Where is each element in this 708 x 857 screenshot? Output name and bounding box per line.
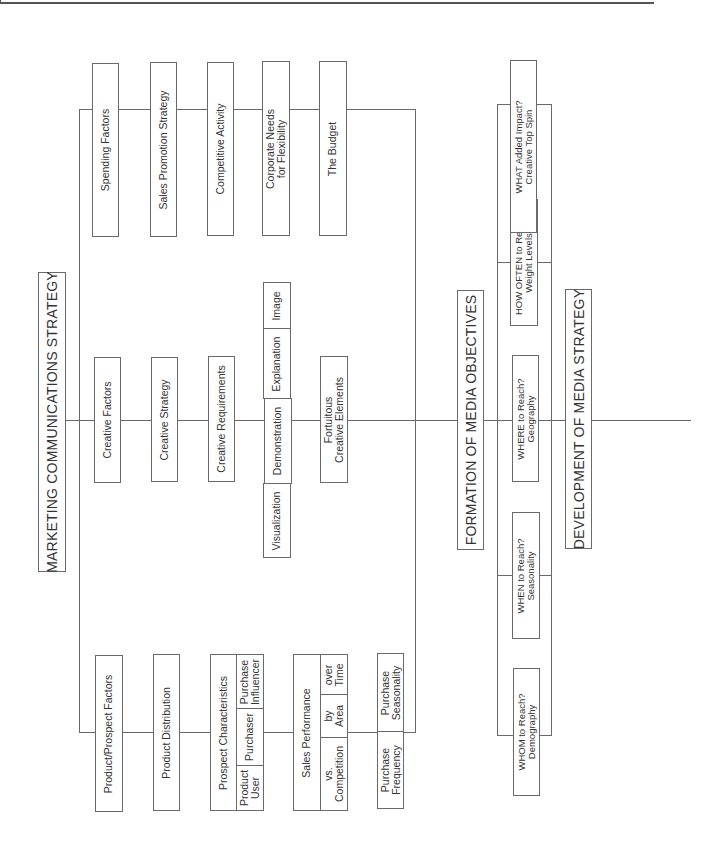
competitive-activity-label: Competitive Activity	[215, 103, 226, 194]
explanation-label: Explanation	[271, 336, 282, 391]
what-impact-box: WHAT Added Impact? Creative Top Spin	[510, 60, 537, 233]
image-label: Image	[271, 291, 282, 320]
spending-factors-label: Spending Factors	[100, 109, 111, 191]
creative-requirements-label: Creative Requirements	[216, 365, 227, 472]
visualization-box: Visualization	[263, 483, 291, 558]
prospect-characteristics-label: Prospect Characteristics	[218, 676, 229, 790]
vs-competition-label: vs. Competition	[323, 746, 345, 802]
creative-strategy-label: Creative Strategy	[159, 379, 170, 460]
spending-factors-box: Spending Factors	[92, 63, 119, 237]
fortuitous-label: Fortuitous Creative Elements	[323, 377, 345, 463]
product-distribution-label: Product Distribution	[161, 687, 172, 779]
product-user-box: Product User	[236, 765, 264, 811]
title-text: MARKETING COMMUNICATIONS STRATEGY	[45, 271, 60, 573]
trunk-line	[79, 109, 80, 733]
over-time-box: over Time	[320, 654, 348, 695]
right-bracket-line	[415, 109, 416, 733]
demonstration-box: Demonstration	[264, 398, 292, 484]
purchaser-label: Purchaser	[244, 713, 255, 761]
top-bracket	[79, 109, 415, 110]
sales-performance-box: Sales Performance	[293, 654, 321, 811]
corporate-needs-label: Corporate Needs for Flexibility	[265, 109, 287, 189]
purchase-frequency-label: Purchase Frequency	[379, 745, 401, 795]
whom-box: WHOM to Reach? Demography	[513, 668, 540, 796]
product-user-label: Product User	[239, 770, 261, 806]
fortuitous-box: Fortuitous Creative Elements	[320, 356, 348, 483]
by-area-label: by Area	[323, 705, 345, 727]
page-border-corner	[0, 0, 1, 4]
corporate-needs-box: Corporate Needs for Flexibility	[262, 61, 290, 236]
creative-factors-box: Creative Factors	[94, 357, 121, 483]
media-strategy-box: DEVELOPMENT OF MEDIA STRATEGY	[565, 289, 592, 549]
vs-competition-box: vs. Competition	[320, 737, 348, 811]
sales-promotion-box: Sales Promotion Strategy	[150, 62, 177, 237]
media-objectives-label: FORMATION OF MEDIA OBJECTIVES	[463, 295, 478, 546]
budget-box: The Budget	[319, 61, 347, 236]
page-border-top	[0, 2, 654, 4]
explanation-box: Explanation	[263, 328, 291, 399]
purchaser-box: Purchaser	[236, 708, 264, 766]
by-area-box: by Area	[320, 694, 348, 738]
sales-performance-label: Sales Performance	[301, 688, 312, 777]
product-distribution-box: Product Distribution	[153, 654, 180, 811]
when-box: WHEN to Reach? Seasonality	[512, 512, 540, 639]
whom-label: WHOM to Reach? Demography	[517, 693, 537, 770]
media-strategy-label: DEVELOPMENT OF MEDIA STRATEGY	[571, 289, 586, 549]
media-bracket-left	[497, 104, 498, 736]
where-label: WHERE to Reach? Geography	[516, 378, 536, 459]
demonstration-label: Demonstration	[272, 407, 283, 475]
title-connector	[65, 420, 79, 421]
sales-promotion-label: Sales Promotion Strategy	[158, 90, 169, 209]
creative-requirements-box: Creative Requirements	[208, 356, 235, 482]
budget-label: The Budget	[327, 121, 338, 175]
what-impact-label: WHAT Added Impact? Creative Top Spin	[514, 100, 534, 193]
competitive-activity-box: Competitive Activity	[207, 62, 234, 236]
purchase-seasonality-label: Purchase Seasonality	[379, 665, 401, 719]
media-objectives-box: FORMATION OF MEDIA OBJECTIVES	[457, 290, 484, 550]
purchase-frequency-box: Purchase Frequency	[377, 731, 404, 809]
when-label: WHEN to Reach? Seasonality	[516, 538, 536, 613]
image-box: Image	[263, 282, 291, 329]
media-bracket-right	[551, 104, 552, 736]
purchase-influencer-box: Purchase Influencer	[236, 654, 264, 709]
creative-strategy-box: Creative Strategy	[151, 357, 178, 482]
where-box: WHERE to Reach? Geography	[512, 355, 539, 482]
purchase-seasonality-box: Purchase Seasonality	[377, 653, 404, 732]
product-prospect-box: Product/Prospect Factors	[95, 655, 123, 812]
product-prospect-label: Product/Prospect Factors	[103, 674, 114, 792]
visualization-label: Visualization	[271, 491, 282, 550]
over-time-label: over Time	[323, 663, 345, 686]
title-box: MARKETING COMMUNICATIONS STRATEGY	[38, 272, 66, 572]
purchase-influencer-label: Purchase Influencer	[239, 658, 261, 704]
prospect-characteristics-box: Prospect Characteristics	[210, 654, 237, 811]
creative-factors-label: Creative Factors	[102, 381, 113, 458]
